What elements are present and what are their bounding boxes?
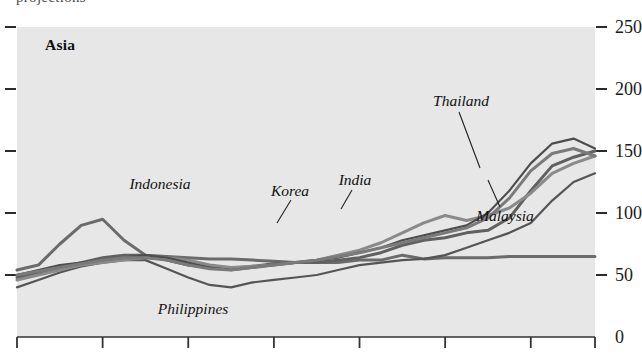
x-axis-ticks bbox=[17, 337, 595, 348]
y-tick-label-250: 250 bbox=[615, 17, 642, 38]
series-label-korea: Korea bbox=[271, 182, 309, 200]
y-tick-label-0: 0 bbox=[615, 327, 624, 348]
y-tick-label-50: 50 bbox=[615, 265, 633, 286]
series-label-indonesia: Indonesia bbox=[129, 175, 190, 193]
y-tick-label-200: 200 bbox=[615, 79, 642, 100]
series-label-philippines: Philippines bbox=[158, 300, 229, 318]
asia-line-chart bbox=[0, 0, 642, 361]
y-tick-label-150: 150 bbox=[615, 141, 642, 162]
y-tick-label-100: 100 bbox=[615, 203, 642, 224]
series-label-india: India bbox=[339, 171, 372, 189]
series-label-malaysia: Malaysia bbox=[476, 207, 534, 225]
figure-container: projections Asia 050100150200250 Indones… bbox=[0, 0, 642, 361]
panel-label-asia: Asia bbox=[45, 36, 75, 54]
series-label-thailand: Thailand bbox=[433, 92, 489, 110]
